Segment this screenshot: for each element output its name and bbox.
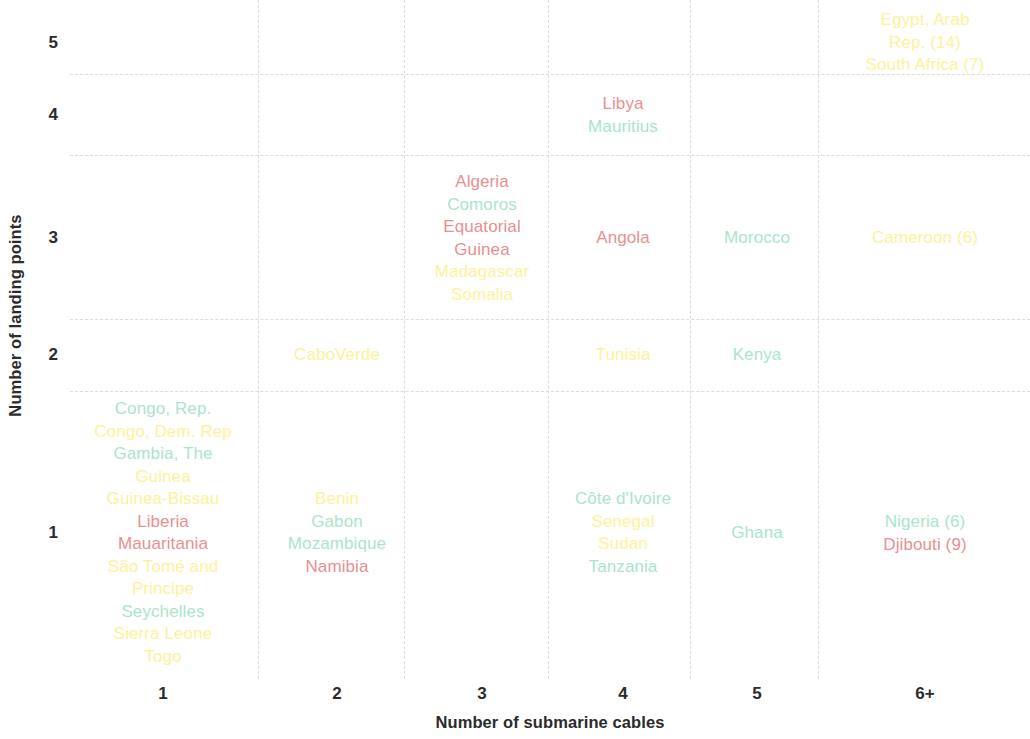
x-axis-tick-5: 5 <box>717 684 797 704</box>
gridline-horizontal <box>70 319 1030 320</box>
cell-x6+-y1: Nigeria (6)Djibouti (9) <box>883 511 966 556</box>
country-label: Guinea <box>94 466 232 489</box>
cell-x4-y4: LibyaMauritius <box>588 93 658 138</box>
gridline-horizontal <box>70 391 1030 392</box>
cell-x2-y1: BeninGabonMozambiqueNamibia <box>288 488 386 578</box>
x-axis-tick-3: 3 <box>442 684 522 704</box>
country-label: Sudan <box>575 533 671 556</box>
country-label: Togo <box>94 646 232 669</box>
y-axis-tick-5: 5 <box>0 33 58 53</box>
country-label: Congo, Rep. <box>94 398 232 421</box>
country-label: Tunisia <box>596 344 651 367</box>
cell-x4-y1: Côte d'IvoireSenegalSudanTanzania <box>575 488 671 578</box>
country-label: Equatorial Guinea <box>422 216 542 261</box>
chart-container: Number of landing points Number of subma… <box>0 0 1030 739</box>
cell-x5-y2: Kenya <box>733 344 782 367</box>
country-label: Gambia, The <box>94 443 232 466</box>
y-axis-tick-3: 3 <box>0 228 58 248</box>
cell-x5-y1: Ghana <box>731 522 783 545</box>
x-axis-tick-4: 4 <box>583 684 663 704</box>
country-label: Tanzania <box>575 556 671 579</box>
country-label: Benin <box>288 488 386 511</box>
country-label: Seychelles <box>94 601 232 624</box>
country-label: Kenya <box>733 344 782 367</box>
cell-x2-y2: CaboVerde <box>294 344 380 367</box>
country-label: Mozambique <box>288 533 386 556</box>
plot-area: Congo, Rep.Congo, Dem. RepGambia, TheGui… <box>70 0 1030 679</box>
cell-x1-y1: Congo, Rep.Congo, Dem. RepGambia, TheGui… <box>94 398 232 668</box>
country-label: Sierra Leone <box>94 623 232 646</box>
x-axis-title: Number of submarine cables <box>70 713 1030 732</box>
country-label: CaboVerde <box>294 344 380 367</box>
x-axis-tick-1: 1 <box>123 684 203 704</box>
country-label: Liberia <box>94 511 232 534</box>
country-label: Mauritius <box>588 115 658 138</box>
x-axis-tick-6+: 6+ <box>885 684 965 704</box>
country-label: Namibia <box>288 556 386 579</box>
country-label: Libya <box>588 93 658 116</box>
y-axis-title: Number of landing points <box>6 0 32 685</box>
country-label: Madagascar <box>422 261 542 284</box>
country-label: Djibouti (9) <box>883 533 966 556</box>
country-label: Morocco <box>724 227 790 250</box>
cell-x5-y3: Morocco <box>724 227 790 250</box>
country-label: Nigeria (6) <box>883 511 966 534</box>
country-label: Gabon <box>288 511 386 534</box>
gridline-vertical <box>258 0 259 679</box>
country-label: São Tomé and Principe <box>103 556 223 601</box>
x-axis-tick-2: 2 <box>297 684 377 704</box>
country-label: Ghana <box>731 522 783 545</box>
country-label: Cameroon (6) <box>872 227 978 250</box>
country-label: Angola <box>596 227 650 250</box>
gridline-vertical <box>690 0 691 679</box>
gridline-vertical <box>404 0 405 679</box>
cell-x4-y3: Angola <box>596 227 650 250</box>
country-label: Côte d'Ivoire <box>575 488 671 511</box>
cell-x3-y3: AlgeriaComorosEquatorial GuineaMadagasca… <box>422 171 542 306</box>
country-label: Senegal <box>575 511 671 534</box>
cell-x6+-y3: Cameroon (6) <box>872 227 978 250</box>
cell-x4-y2: Tunisia <box>596 344 651 367</box>
country-label: Congo, Dem. Rep <box>94 421 232 444</box>
cell-x6+-y5: Egypt, Arab Rep. (14)South Africa (7) <box>865 9 985 77</box>
gridline-horizontal <box>70 155 1030 156</box>
gridline-vertical <box>548 0 549 679</box>
country-label: Mauaritania <box>94 533 232 556</box>
y-axis-tick-2: 2 <box>0 345 58 365</box>
country-label: Comoros <box>422 193 542 216</box>
y-axis-tick-4: 4 <box>0 105 58 125</box>
country-label: South Africa (7) <box>865 54 985 77</box>
gridline-vertical <box>818 0 819 679</box>
country-label: Somalia <box>422 283 542 306</box>
country-label: Algeria <box>422 171 542 194</box>
country-label: Egypt, Arab Rep. (14) <box>865 9 985 54</box>
y-axis-tick-1: 1 <box>0 523 58 543</box>
country-label: Guinea-Bissau <box>94 488 232 511</box>
